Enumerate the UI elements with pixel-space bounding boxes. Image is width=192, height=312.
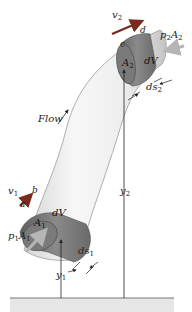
label-dV-2: dV xyxy=(144,56,158,66)
label-A1: A1 xyxy=(34,218,46,230)
label-c: c xyxy=(120,40,125,49)
label-p2A2: p2A2 xyxy=(160,30,183,42)
velocity-arrow-2 xyxy=(112,22,140,34)
bernoulli-diagram: v2 d c p2A2 A2 dV ds2 Flow y2 v1 b a dV … xyxy=(0,0,192,312)
label-p1A1: p1A1 xyxy=(8,231,31,243)
label-v2: v2 xyxy=(112,10,122,22)
label-y2: y2 xyxy=(120,186,130,198)
ground xyxy=(10,298,174,312)
label-ds1: ds1 xyxy=(78,246,94,258)
label-flow: Flow xyxy=(38,114,63,124)
label-b: b xyxy=(32,186,38,195)
label-a: a xyxy=(20,200,25,209)
label-y1: y1 xyxy=(56,270,66,282)
label-v1: v1 xyxy=(8,186,18,198)
label-dV-1: dV xyxy=(52,208,66,218)
diagram-canvas xyxy=(0,0,192,312)
label-A2: A2 xyxy=(122,58,134,70)
label-d: d xyxy=(140,26,146,35)
label-ds2: ds2 xyxy=(146,82,162,94)
ds1-dimension xyxy=(68,262,98,274)
force-arrow-2 xyxy=(168,46,184,50)
